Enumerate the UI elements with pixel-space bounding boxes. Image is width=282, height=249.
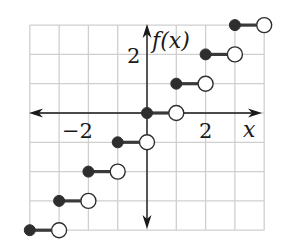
closed-dot-icon	[83, 166, 94, 177]
step-segment	[24, 223, 66, 238]
closed-dot-icon	[24, 225, 35, 236]
y-axis-label: f(x)	[150, 28, 190, 53]
closed-dot-icon	[229, 20, 240, 31]
step-segment	[112, 135, 154, 150]
x-tick-label-2: 2	[199, 119, 212, 143]
open-dot-icon	[140, 135, 155, 150]
open-dot-icon	[257, 18, 272, 33]
open-dot-icon	[169, 106, 184, 121]
closed-dot-icon	[200, 49, 211, 60]
open-dot-icon	[198, 76, 213, 91]
open-dot-icon	[81, 193, 96, 208]
step-segment	[229, 18, 271, 33]
axis-labels: −2 2 2 x f(x)	[62, 28, 256, 143]
open-dot-icon	[110, 164, 125, 179]
closed-dot-icon	[171, 78, 182, 89]
x-tick-label-neg2: −2	[62, 119, 93, 143]
closed-dot-icon	[112, 137, 123, 148]
step-segment	[83, 164, 125, 179]
closed-dot-icon	[54, 195, 65, 206]
closed-dot-icon	[142, 108, 153, 119]
open-dot-icon	[227, 47, 242, 62]
step-segment	[142, 106, 184, 121]
open-dot-icon	[52, 223, 67, 238]
step-function-chart: −2 2 2 x f(x)	[0, 0, 282, 249]
step-segment	[54, 193, 96, 208]
x-axis-label: x	[243, 117, 256, 142]
step-segment	[171, 76, 213, 91]
y-tick-label-2: 2	[127, 44, 140, 68]
step-segment	[200, 47, 242, 62]
